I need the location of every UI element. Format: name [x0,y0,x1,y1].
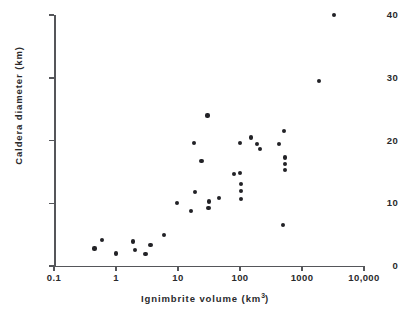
x-tick-label-100: 100 [231,273,248,283]
data-point [238,141,242,145]
x-tick-100 [239,266,241,271]
data-point [277,142,281,146]
scatter-chart-figure: 010203040 0.1110100100010,000 Caldera di… [0,0,398,320]
data-point [283,162,287,166]
data-point [281,223,285,227]
x-tick-10,000 [363,266,365,271]
data-point [206,206,210,210]
data-point [192,141,196,145]
x-tick-label-0.1: 0.1 [47,273,61,283]
data-point [239,182,243,186]
y-tick-label-30: 30 [356,73,398,83]
x-tick-1000 [301,266,303,271]
data-point [283,155,287,159]
data-point [114,251,118,255]
data-point [207,199,211,203]
x-axis-title: Ignimbrite volume (km3) [40,292,370,304]
x-tick-label-10: 10 [172,273,183,283]
data-point [217,196,221,200]
y-tick-10 [49,203,54,205]
y-tick-40 [49,14,54,16]
data-point [255,142,259,146]
data-point [100,238,104,242]
x-tick-label-1: 1 [113,273,119,283]
y-tick-20 [49,140,54,142]
data-point [283,168,287,172]
x-axis-title-tail: ) [265,293,269,304]
data-point [239,189,243,193]
data-point [239,197,243,201]
data-point [189,209,193,213]
x-axis-line [54,266,364,268]
data-point [131,239,135,243]
data-point [232,172,236,176]
data-point [133,248,137,252]
x-tick-label-1000: 1000 [291,273,314,283]
x-tick-10 [177,266,179,271]
y-tick-30 [49,77,54,79]
x-tick-1 [115,266,117,271]
data-point [317,79,321,83]
data-point [258,147,262,151]
y-tick-label-20: 20 [356,136,398,146]
data-point [92,246,96,250]
y-tick-label-10: 10 [356,198,398,208]
data-point [205,113,209,117]
data-point [238,171,242,175]
data-point [249,135,253,139]
x-tick-0.1 [53,266,55,271]
data-point [332,13,336,17]
y-axis-line [54,15,56,267]
data-point [143,252,147,256]
data-point [199,159,203,163]
data-point [148,243,152,247]
data-point [193,190,197,194]
y-axis-title: Caldera diameter (km) [13,26,24,186]
data-point [162,233,166,237]
y-tick-label-40: 40 [356,10,398,20]
data-point [282,129,286,133]
x-tick-label-10,000: 10,000 [348,273,379,283]
x-axis-title-base: Ignimbrite volume (km [141,293,261,304]
data-point [175,201,179,205]
